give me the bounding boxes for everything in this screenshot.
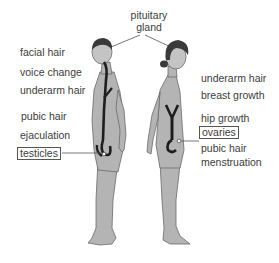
- female-label-pubic-hair: pubic hair: [201, 142, 247, 154]
- male-label-underarm-hair: underarm hair: [20, 84, 85, 96]
- female-figure: [147, 40, 190, 244]
- male-figure: [88, 38, 126, 245]
- male-label-pubic-hair: pubic hair: [21, 110, 67, 122]
- female-label-breast-growth: breast growth: [201, 89, 265, 101]
- pituitary-line2: gland: [121, 21, 177, 33]
- female-label-menstruation: menstruation: [201, 156, 262, 168]
- pituitary-gland-label: pituitary gland: [121, 9, 177, 33]
- male-label-facial-hair: facial hair: [20, 46, 65, 58]
- male-label-testicles: testicles: [17, 147, 61, 160]
- female-label-ovaries: ovaries: [199, 126, 239, 139]
- pituitary-pointer-male: [111, 35, 140, 47]
- pituitary-line1: pituitary: [121, 9, 177, 21]
- female-label-hip-growth: hip growth: [201, 112, 249, 124]
- male-label-ejaculation: ejaculation: [20, 129, 70, 141]
- female-label-underarm-hair: underarm hair: [201, 72, 266, 84]
- male-label-voice-change: voice change: [20, 66, 82, 78]
